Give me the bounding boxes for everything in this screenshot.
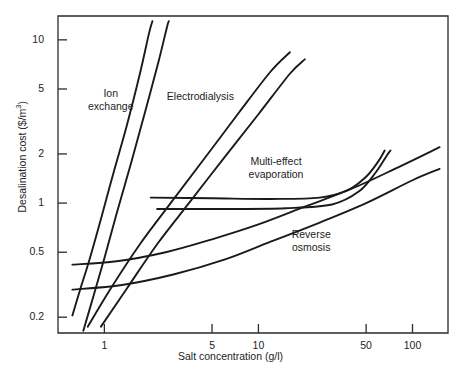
curve-annotation-line: osmosis [263,241,359,254]
curve-reverse-osmosis-lower-bound [72,169,439,290]
curve-ion-exchange-upper-bound [72,21,152,315]
curve-annotation: Reverseosmosis [263,228,359,254]
y-tick-label: 1 [0,196,44,208]
chart-canvas [0,0,468,383]
y-tick-label: 5 [0,82,44,94]
y-axis-title-suffix: ) [16,101,28,105]
y-axis-title-exponent: 3 [14,104,23,108]
y-tick-label: 0.2 [0,310,44,322]
curve-annotation-line: Reverse [263,228,359,241]
curve-annotation-line: Multi-effect [228,155,324,168]
curve-annotation: Multi-effectevaporation [228,155,324,181]
curve-annotation-line: Ion [63,87,159,100]
curve-annotation: Electrodialysis [152,90,248,103]
y-tick-label: 10 [0,33,44,45]
y-tick-label: 2 [0,147,44,159]
x-tick-label: 5 [192,339,232,351]
curve-annotation: Ionexchange [63,87,159,113]
x-tick-label: 50 [346,339,386,351]
curve-annotation-line: exchange [63,100,159,113]
x-tick-label: 100 [392,339,432,351]
x-axis-title: Salt concentration (g/l) [178,350,283,362]
x-tick-label: 1 [84,339,124,351]
desalination-cost-chart: Desalination cost ($/m3) Salt concentrat… [0,0,468,383]
x-tick-label: 10 [238,339,278,351]
curve-annotation-line: Electrodialysis [152,90,248,103]
y-tick-label: 0.5 [0,245,44,257]
curve-annotation-line: evaporation [228,168,324,181]
